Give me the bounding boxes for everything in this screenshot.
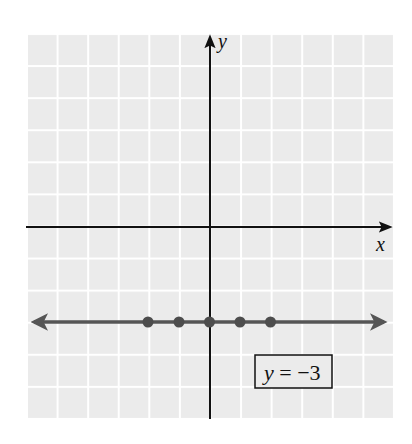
y-axis-label: y [216, 30, 227, 53]
x-axis-label: x [375, 233, 385, 255]
point-neg1 [174, 317, 185, 328]
point-neg2 [143, 317, 154, 328]
svg-text:y = −3: y = −3 [262, 360, 321, 385]
equation-label: y = −3 [255, 355, 332, 388]
equation-value: = −3 [274, 360, 321, 385]
point-1 [235, 317, 246, 328]
coordinate-plane: y x y = −3 [0, 0, 412, 444]
point-2 [265, 317, 276, 328]
equation-variable: y [262, 360, 274, 385]
point-0 [204, 317, 215, 328]
